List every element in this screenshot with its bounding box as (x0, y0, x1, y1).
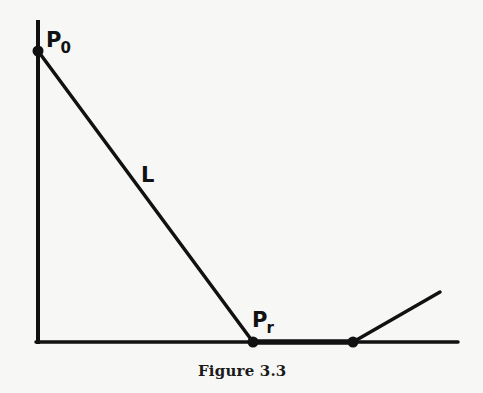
point-pr (248, 337, 259, 348)
angled-segment (353, 292, 440, 342)
label-pr: Pr (252, 310, 274, 331)
point-second (348, 337, 359, 348)
diagram-canvas (0, 0, 483, 393)
label-l-text: L (141, 163, 154, 187)
label-p0-subscript: 0 (60, 39, 70, 57)
label-pr-subscript: r (266, 319, 273, 337)
figure-caption: Figure 3.3 (198, 362, 287, 380)
point-p0 (33, 46, 44, 57)
label-l: L (141, 165, 154, 186)
label-p0: P0 (46, 30, 71, 51)
figure-3-3: P0 L Pr Figure 3.3 (0, 0, 483, 393)
line-l (38, 51, 253, 342)
